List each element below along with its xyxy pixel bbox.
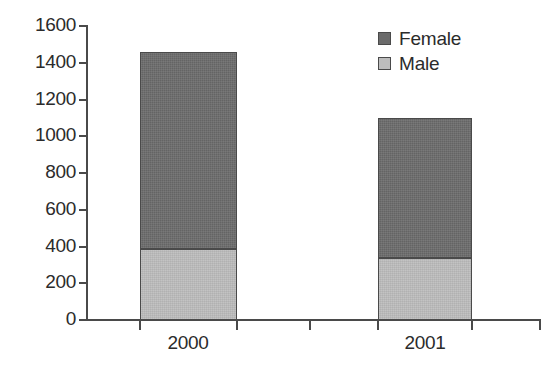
y-tick-label: 1600 <box>2 14 76 36</box>
y-tick-mark <box>79 99 87 101</box>
legend-swatch-female-icon <box>378 32 391 45</box>
legend-item-male[interactable]: Male <box>378 51 461 76</box>
x-tick-mark <box>309 321 311 330</box>
x-tick-mark <box>139 321 141 330</box>
legend-label-female: Female <box>399 28 461 50</box>
y-tick-label: 1400 <box>2 51 76 73</box>
y-tick-mark <box>79 172 87 174</box>
y-tick-label: 400 <box>2 235 76 257</box>
legend-swatch-male-icon <box>378 57 391 70</box>
stacked-bar-chart: 02004006008001000120014001600 20002001 F… <box>0 0 555 367</box>
bar-segment-male-2000[interactable] <box>140 249 237 320</box>
x-tick-mark <box>236 321 238 330</box>
bar-2000[interactable] <box>140 0 237 367</box>
bar-segment-female-2000[interactable] <box>140 52 237 250</box>
x-tick-mark <box>471 321 473 330</box>
y-tick-mark <box>79 209 87 211</box>
y-tick-mark <box>79 25 87 27</box>
y-tick-label: 600 <box>2 198 76 220</box>
bar-segment-male-2001[interactable] <box>378 258 472 320</box>
x-category-label-2000: 2000 <box>138 332 238 354</box>
y-tick-label: 1200 <box>2 88 76 110</box>
y-tick-mark <box>79 319 87 321</box>
legend: Female Male <box>378 26 461 76</box>
x-category-label-2001: 2001 <box>375 332 475 354</box>
plot-area: 02004006008001000120014001600 20002001 F… <box>0 0 555 367</box>
y-tick-mark <box>79 62 87 64</box>
legend-label-male: Male <box>399 53 439 75</box>
y-tick-mark <box>79 135 87 137</box>
y-tick-mark <box>79 282 87 284</box>
y-tick-label: 800 <box>2 161 76 183</box>
x-tick-mark <box>539 321 541 330</box>
y-tick-label: 0 <box>2 308 76 330</box>
bar-segment-female-2001[interactable] <box>378 118 472 259</box>
legend-item-female[interactable]: Female <box>378 26 461 51</box>
y-tick-label: 200 <box>2 271 76 293</box>
y-tick-mark <box>79 246 87 248</box>
y-tick-label: 1000 <box>2 124 76 146</box>
x-tick-mark <box>377 321 379 330</box>
